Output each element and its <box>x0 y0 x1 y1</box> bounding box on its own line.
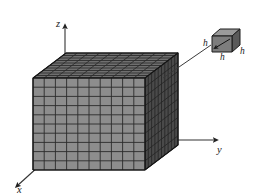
z-axis-label: z <box>55 18 60 29</box>
x-axis-label: x <box>16 184 22 195</box>
small-cube-label-bottom: h <box>220 52 225 62</box>
y-axis-label: y <box>216 144 222 155</box>
small-cube-label-left: h <box>203 38 208 48</box>
subdivided-cube <box>33 53 178 170</box>
cube-subdivision-diagram: z y x <box>0 0 253 196</box>
unit-cell-cube: h h h <box>203 29 245 62</box>
small-cube-label-right: h <box>240 46 245 56</box>
